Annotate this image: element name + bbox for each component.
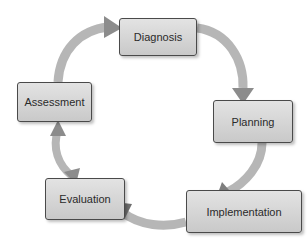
arrow-evaluation-assessment-both (50, 120, 80, 184)
node-planning: Planning (213, 100, 293, 143)
node-label: Diagnosis (134, 31, 182, 43)
node-diagnosis: Diagnosis (119, 18, 197, 56)
node-evaluation: Evaluation (45, 178, 125, 220)
node-label: Assessment (25, 96, 85, 108)
node-label: Evaluation (59, 193, 110, 205)
node-label: Implementation (206, 206, 281, 218)
node-implementation: Implementation (186, 190, 302, 233)
arrow-assessment-to-diagnosis (58, 16, 122, 82)
arrow-diagnosis-to-planning (197, 28, 254, 104)
node-assessment: Assessment (17, 82, 92, 122)
node-label: Planning (232, 116, 275, 128)
